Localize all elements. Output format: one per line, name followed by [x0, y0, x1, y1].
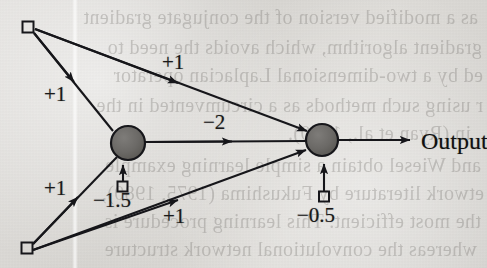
input-node-2[interactable]	[22, 243, 33, 254]
weight-label-input1-output: +1	[162, 50, 184, 75]
figure-canvas: as a modified version of the conjugate g…	[0, 0, 487, 268]
output-text-label: Output	[421, 128, 487, 155]
edge-hidden-output	[145, 141, 306, 142]
network-diagram	[0, 0, 487, 268]
hidden-unit-node[interactable]	[111, 126, 145, 160]
bias-label-output: −0.5	[297, 203, 335, 228]
edge-arrowhead	[145, 142, 232, 143]
output-unit-node[interactable]	[306, 124, 338, 156]
input-node-1[interactable]	[23, 22, 34, 33]
weight-label-input1-hidden: +1	[44, 82, 66, 107]
edge-input1-output	[35, 29, 307, 131]
bias-node-output[interactable]	[319, 192, 329, 202]
bias-label-hidden: −1.5	[93, 188, 131, 213]
weight-label-input2-hidden: +1	[44, 176, 66, 201]
edge-arrowhead	[35, 29, 178, 83]
weight-label-input2-output: +1	[163, 204, 185, 229]
weight-label-hidden-output: −2	[203, 110, 225, 135]
